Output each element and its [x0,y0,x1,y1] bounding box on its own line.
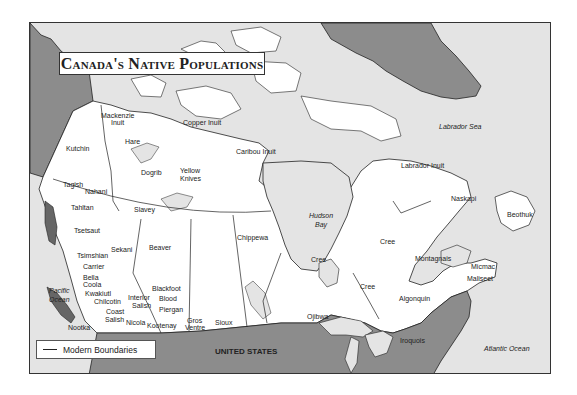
native-population-label: Iroquois [400,337,425,345]
native-population-label: Maliseet [467,275,493,283]
native-population-label: Kutchin [66,145,89,153]
water-body-label: Bay [315,221,327,229]
native-population-label: Tagish [63,181,83,189]
native-population-label: Beaver [149,244,171,252]
arctic-island [231,27,281,53]
native-population-label: Chippewa [237,234,268,242]
victoria-island [176,86,241,119]
native-population-label: Copper Inuit [183,119,221,127]
native-population-label: Slavey [134,206,155,214]
native-population-label: Ventre [185,324,205,332]
native-population-label: Naskapi [451,195,476,203]
arctic-island [131,75,166,97]
native-population-label: Tsetsaut [74,227,100,235]
water-body-label: Atlantic Ocean [484,345,530,353]
baffin-island [301,96,401,141]
native-population-label: Piergan [159,306,183,314]
native-population-label: Carrier [83,263,104,271]
legend-label: Modern Boundaries [63,345,137,355]
native-population-label: Nootka [68,324,90,332]
native-population-label: Hare [125,138,140,146]
native-population-label: Montagnais [415,255,451,263]
native-population-label: Algonquin [399,295,430,303]
native-population-label: Blackfoot [152,285,181,293]
native-population-label: Sioux [215,319,233,327]
native-population-label: Knives [180,175,201,183]
map-title: Canada's Native Populations [61,55,264,73]
native-population-label: Blood [159,295,177,303]
map-title-box: Canada's Native Populations [59,52,265,75]
native-population-label: Chilcotin [94,298,121,306]
greenland-landmass [321,23,481,99]
native-population-label: Micmac [471,263,495,271]
native-population-label: Cree [311,256,326,264]
native-population-label: Tahltan [71,204,94,212]
native-population-label: Yellow [180,167,200,175]
native-population-label: Nicola [126,319,145,327]
water-body-label: Labrador Sea [439,123,481,131]
native-population-label: Inuit [111,119,124,127]
native-population-label: Coast [106,308,124,316]
native-population-label: Nahani [85,188,107,196]
native-population-label: Cree [360,283,375,291]
native-population-label: Beothuk [507,211,533,219]
water-body-label: Hudson [309,212,333,220]
country-label: UNITED STATES [215,348,277,356]
native-population-label: Kootenay [147,322,177,330]
native-population-label: Coola [83,281,101,289]
native-population-label: Caribou Inuit [236,148,276,156]
native-population-label: Tsimshian [77,252,108,260]
boundary-line-symbol [43,349,57,350]
water-body-label: Pacific [49,287,70,295]
native-population-label: Salish [105,316,124,324]
legend: Modern Boundaries [36,340,156,359]
native-population-label: Ojibwa [307,313,328,321]
native-population-label: Dogrib [141,169,162,177]
native-population-label: Interior [128,294,150,302]
native-population-label: Sekani [111,246,132,254]
native-population-label: Kwakiutl [85,290,111,298]
native-population-label: Salish [132,302,151,310]
native-population-label: Labrador Inuit [401,162,444,170]
water-body-label: Ocean [49,296,70,304]
native-population-label: Cree [380,238,395,246]
